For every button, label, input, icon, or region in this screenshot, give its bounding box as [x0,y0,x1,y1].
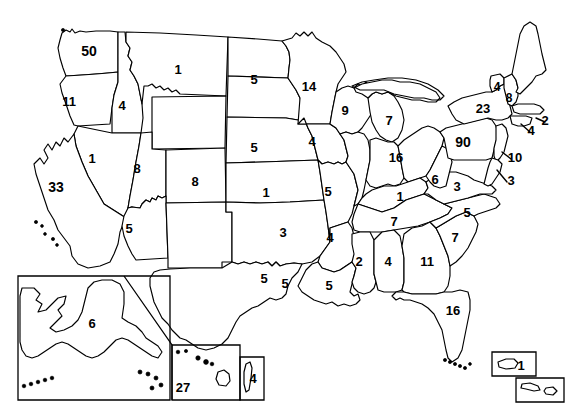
virgin-islands-island-b [544,387,557,395]
hawaii-island [184,349,187,352]
state-outline-MA[interactable] [512,104,544,114]
state-value-DE-MD: 3 [507,174,514,187]
coast-detail-dot [56,244,59,247]
state-value-ID: 4 [118,99,125,112]
state-value-HI: 27 [176,381,190,394]
state-value-UT: 8 [133,162,140,175]
state-outline-KS[interactable] [226,160,324,203]
state-value-LA: 5 [325,279,332,292]
hawaii-island [196,356,200,360]
state-outline-OK[interactable] [226,200,330,266]
state-value-AK: 6 [88,317,95,330]
state-value-AR: 4 [326,231,333,244]
aleutian-dot [50,376,54,380]
aleutian-dot [154,376,158,380]
state-value-CT-RI: 4 [527,124,534,137]
hawaii-island [204,360,209,365]
state-value-SD: 5 [250,141,257,154]
state-value-NJ: 10 [508,151,522,164]
hawaii-island [210,362,214,366]
us-map-outline [0,0,575,416]
state-value-MA: 2 [541,114,548,127]
state-value-WA: 50 [81,44,97,58]
puerto-rico-island [498,359,518,369]
florida-keys-dot [458,364,461,367]
leader-line-DE-MD [497,170,507,182]
coast-detail-dot [41,225,44,228]
florida-keys-dot [469,363,472,366]
state-value-FL: 16 [446,304,460,317]
state-value-ND: 5 [250,73,257,86]
aleutian-dot [36,380,40,384]
state-value-SC: 7 [451,231,458,244]
state-value-AZ: 5 [125,222,132,235]
florida-keys-dot [453,362,456,365]
state-value-CA: 33 [48,180,64,194]
hawaii-island [176,350,180,354]
state-value-WI: 9 [341,104,348,117]
hawaii-big-island [216,370,230,386]
state-value-NE: 1 [262,186,269,199]
state-value-MN: 14 [302,80,316,93]
state-value-WV: 6 [431,173,438,186]
coast-detail-dot [34,220,37,223]
state-value-PA: 90 [455,135,471,149]
state-outline-ND[interactable] [228,37,290,78]
state-value-TX: 5 [260,272,267,285]
state-outline-NM[interactable] [166,202,232,268]
coast-detail-dot [61,28,64,31]
state-value-MO: 5 [324,185,331,198]
state-value-OR: 11 [62,95,76,108]
aleutian-dot [43,378,47,382]
state-value-CO: 8 [191,175,198,188]
state-value-OK: 5 [281,277,288,290]
state-value-VT: 4 [494,81,501,93]
florida-keys-dot [443,358,446,361]
state-value-MS: 2 [355,255,362,268]
state-value-GA: 11 [420,255,434,268]
aleutian-dot [159,383,163,387]
state-value-PR: 1 [517,359,524,372]
state-value-TN: 7 [390,215,397,228]
florida-keys-dot [463,366,466,369]
state-value-NC: 5 [463,206,470,219]
state-value-HI-SUB: 4 [249,372,256,385]
aleutian-dot [146,372,150,376]
state-outline-FL[interactable] [392,290,470,362]
state-value-KY: 1 [396,190,403,203]
state-outline-TX[interactable] [150,262,302,350]
state-value-IA: 4 [308,135,315,148]
state-value-MT: 1 [174,63,181,76]
state-outline-NJ[interactable] [494,124,508,162]
state-value-AL: 4 [384,255,391,268]
aleutian-dot [138,370,142,374]
state-value-NV: 1 [88,152,95,165]
aleutian-dot [29,382,33,386]
state-value-NY: 23 [476,102,490,115]
state-outline-WY[interactable] [152,96,226,149]
aleutian-dot [22,384,26,388]
virgin-islands-island-a [521,383,540,391]
us-map-figure: 5011415518833513551445459716172411167536… [0,0,575,416]
state-value-IN: 16 [389,151,403,164]
state-value-VA: 3 [453,180,460,193]
aleutian-dot [150,386,154,390]
state-value-KS: 3 [279,226,286,239]
state-value-MI: 7 [385,114,392,127]
state-outline-ME[interactable] [512,22,546,94]
state-value-NH: 8 [506,92,513,104]
coast-detail-dot [44,233,47,236]
florida-keys-dot [448,360,451,363]
coast-detail-dot [51,237,54,240]
